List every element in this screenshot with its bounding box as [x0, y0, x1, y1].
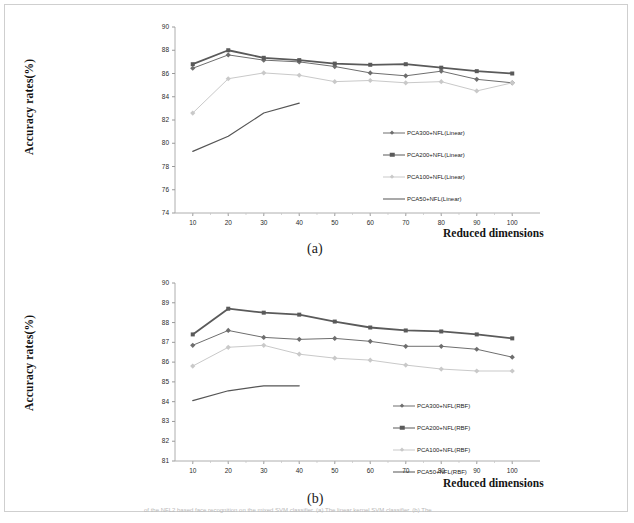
panel-a-caption: (a) — [307, 241, 323, 257]
legend-item[interactable]: PCA50+NFL(Linear) — [383, 192, 583, 205]
panel-x-tick-label: 90 — [465, 467, 489, 474]
panel-y-tick-label: 76 — [149, 186, 169, 193]
panel-b-legend: PCA300+NFL(RBF)PCA200+NFL(RBF)PCA100+NFL… — [393, 399, 593, 487]
legend-item[interactable]: PCA200+NFL(Linear) — [383, 148, 583, 161]
panel-a-legend: PCA300+NFL(Linear)PCA200+NFL(Linear)PCA1… — [383, 126, 583, 214]
panel-x-tick-label: 10 — [181, 219, 205, 226]
legend-item[interactable]: PCA300+NFL(Linear) — [383, 126, 583, 139]
legend-swatch-icon — [393, 445, 415, 455]
panel-x-tick-label: 20 — [216, 219, 240, 226]
legend-item[interactable]: PCA100+NFL(Linear) — [383, 170, 583, 183]
panel-x-tick-label: 90 — [465, 219, 489, 226]
legend-label: PCA200+NFL(RBF) — [417, 425, 470, 431]
legend-label: PCA50+NFL(Linear) — [407, 196, 462, 202]
panel-y-tick-label: 84 — [149, 93, 169, 100]
legend-item[interactable]: PCA200+NFL(RBF) — [393, 421, 593, 434]
legend-item[interactable]: PCA300+NFL(RBF) — [393, 399, 593, 412]
panel-x-tick-label: 70 — [394, 467, 418, 474]
panel-y-tick-label: 82 — [149, 116, 169, 123]
panel-y-tick-label: 78 — [149, 163, 169, 170]
panel-x-tick-label: 80 — [429, 219, 453, 226]
panel-y-tick-label: 86 — [149, 358, 169, 365]
panel-a-y-axis-title: Accuracy rates(%) — [23, 59, 35, 155]
panel-x-tick-label: 70 — [394, 219, 418, 226]
panel-y-tick-label: 88 — [149, 319, 169, 326]
panel-x-tick-label: 100 — [500, 219, 524, 226]
panel-y-tick-label: 83 — [149, 417, 169, 424]
panel-y-tick-label: 90 — [149, 23, 169, 30]
panel-y-tick-label: 80 — [149, 139, 169, 146]
panel-x-tick-label: 10 — [181, 467, 205, 474]
panel-x-tick-label: 40 — [287, 467, 311, 474]
panel-y-tick-label: 90 — [149, 279, 169, 286]
legend-label: PCA200+NFL(Linear) — [407, 152, 465, 158]
legend-swatch-icon — [393, 423, 415, 433]
panel-y-tick-label: 74 — [149, 209, 169, 216]
legend-item[interactable]: PCA50+NFL(RBF) — [393, 465, 593, 478]
legend-swatch-icon — [383, 172, 405, 182]
panel-y-tick-label: 87 — [149, 338, 169, 345]
panel-x-tick-label: 50 — [323, 219, 347, 226]
panel-x-tick-label: 40 — [287, 219, 311, 226]
legend-swatch-icon — [383, 128, 405, 138]
panel-x-tick-label: 80 — [429, 467, 453, 474]
panel-y-tick-label: 89 — [149, 299, 169, 306]
panel-y-tick-label: 81 — [149, 457, 169, 464]
panel-x-tick-label: 20 — [216, 467, 240, 474]
panel-x-tick-label: 60 — [358, 467, 382, 474]
panel-x-tick-label: 60 — [358, 219, 382, 226]
panel-b-y-axis-title: Accuracy rates(%) — [23, 315, 35, 411]
legend-label: PCA300+NFL(Linear) — [407, 130, 465, 136]
chart-panel-a: Accuracy rates(%) Reduced dimensions (a)… — [5, 5, 629, 263]
panel-y-tick-label: 86 — [149, 70, 169, 77]
panel-y-tick-label: 85 — [149, 378, 169, 385]
legend-swatch-icon — [383, 150, 405, 160]
panel-y-tick-label: 88 — [149, 46, 169, 53]
panel-y-tick-label: 82 — [149, 437, 169, 444]
legend-label: PCA100+NFL(Linear) — [407, 174, 465, 180]
figure-bottom-caption-text: of the NFL2 based face recognition on th… — [144, 507, 432, 513]
panel-x-tick-label: 30 — [252, 219, 276, 226]
figure-frame: Accuracy rates(%) Reduced dimensions (a)… — [4, 4, 628, 512]
chart-panel-b: Accuracy rates(%) Reduced dimensions (b)… — [5, 263, 629, 513]
figure-bottom-caption: of the NFL2 based face recognition on th… — [4, 505, 628, 521]
legend-label: PCA300+NFL(RBF) — [417, 403, 470, 409]
legend-swatch-icon — [383, 194, 405, 204]
panel-x-tick-label: 30 — [252, 467, 276, 474]
panel-x-tick-label: 50 — [323, 467, 347, 474]
panel-a-x-axis-title: Reduced dimensions — [443, 227, 544, 239]
panel-x-tick-label: 100 — [500, 467, 524, 474]
panel-y-tick-label: 84 — [149, 398, 169, 405]
legend-swatch-icon — [393, 401, 415, 411]
legend-item[interactable]: PCA100+NFL(RBF) — [393, 443, 593, 456]
legend-label: PCA100+NFL(RBF) — [417, 447, 470, 453]
